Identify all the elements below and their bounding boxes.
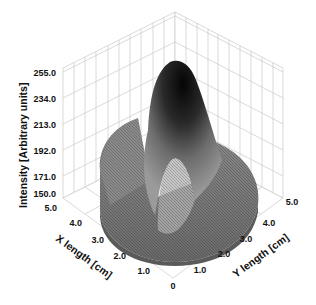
y-tick: 4.0	[263, 218, 276, 228]
x-tick: 5.0	[44, 203, 57, 213]
y-tick: 2.0	[218, 249, 231, 259]
origin-label: 0	[170, 281, 175, 291]
x-tick: 4.0	[69, 218, 82, 228]
y-tick: 1.0	[194, 265, 207, 275]
surface-chart: 255.0 234.0 213.0 192.0 171.0 150.0 Inte…	[0, 0, 316, 305]
z-tick: 171.0	[33, 172, 56, 182]
x-tick: 1.0	[137, 266, 150, 276]
x-tick: 2.0	[113, 251, 126, 261]
z-axis-ticks: 255.0 234.0 213.0 192.0 171.0 150.0	[33, 68, 56, 199]
z-tick: 234.0	[33, 94, 56, 104]
z-tick: 213.0	[33, 120, 56, 130]
x-axis-label: X length [cm]	[54, 232, 115, 281]
z-tick: 192.0	[33, 146, 56, 156]
x-tick: 3.0	[91, 235, 104, 245]
z-tick: 150.0	[33, 189, 56, 199]
z-axis-label: Intensity [Arbitrary units]	[17, 83, 29, 208]
y-tick: 3.0	[240, 234, 253, 244]
y-tick: 5.0	[286, 197, 299, 207]
z-tick: 255.0	[33, 68, 56, 78]
